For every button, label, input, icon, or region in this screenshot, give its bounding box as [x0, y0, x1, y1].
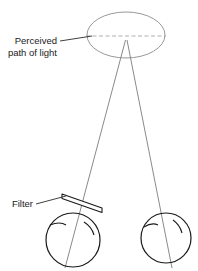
filter-label: Filter	[12, 198, 33, 209]
filter-leader-line	[36, 196, 66, 204]
left-light-ray	[65, 40, 126, 268]
right-light-ray	[127, 40, 172, 268]
right-eye-iris-arc-left	[144, 224, 158, 227]
left-eye-outline	[46, 213, 100, 267]
left-eye-iris-arc-right	[84, 222, 94, 235]
perceived-path-label-line2: path of light	[8, 47, 57, 58]
left-eye	[46, 213, 100, 267]
filter-plate	[62, 194, 102, 213]
optics-diagram-figure: Perceived path of light Filter	[0, 0, 198, 271]
diagram-canvas: Perceived path of light Filter	[0, 0, 198, 271]
right-eye-iris-arc-right	[173, 220, 182, 233]
perceived-path-ellipse	[87, 12, 165, 58]
perceived-path-label-line1: Perceived	[15, 35, 57, 46]
